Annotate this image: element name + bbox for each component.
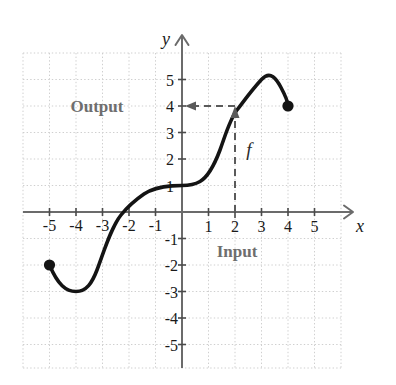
y-axis-label: y (160, 29, 170, 49)
y-tick-label: -5 (165, 337, 178, 354)
x-tick-label: 3 (258, 218, 266, 235)
graph-canvas: y x -5 -4 -3 -2 -1 1 2 3 4 5 5 4 3 2 1 -… (0, 0, 396, 385)
x-tick-label: 4 (284, 218, 292, 235)
x-tick-label: -5 (43, 217, 56, 234)
input-annotation-label: Input (217, 242, 258, 261)
x-axis-label: x (355, 216, 364, 236)
x-tick-label: -4 (69, 217, 82, 234)
y-tick-label: -1 (165, 231, 178, 248)
x-tick-label: 5 (311, 218, 319, 235)
figure-background (0, 0, 396, 385)
x-tick-label: 1 (205, 218, 213, 235)
x-tick-label: 2 (231, 218, 239, 235)
curve-right-endpoint-dot (282, 100, 293, 111)
x-tick-label: -1 (149, 217, 162, 234)
y-tick-label: 3 (166, 125, 174, 142)
x-tick-label: -2 (122, 217, 135, 234)
y-tick-label: -4 (165, 310, 178, 327)
y-tick-label: 2 (166, 151, 174, 168)
output-annotation-label: Output (71, 97, 124, 116)
y-tick-label: -3 (165, 284, 178, 301)
y-tick-label: -2 (165, 257, 178, 274)
y-tick-label: 5 (166, 72, 174, 89)
y-tick-label: 4 (166, 98, 174, 115)
x-tick-label: -3 (96, 217, 109, 234)
curve-left-endpoint-dot (44, 259, 55, 270)
function-graph-figure: y x -5 -4 -3 -2 -1 1 2 3 4 5 5 4 3 2 1 -… (0, 0, 396, 385)
